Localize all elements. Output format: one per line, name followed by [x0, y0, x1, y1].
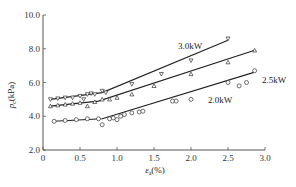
x-tick-label: 0: [41, 153, 46, 163]
data-point: [82, 98, 86, 102]
data-point: [130, 92, 134, 96]
data-point: [104, 91, 108, 95]
data-point: [71, 102, 75, 106]
label-3kw: 3.0kW: [178, 41, 203, 51]
data-point: [141, 109, 145, 113]
data-point: [56, 97, 60, 101]
data-point: [237, 84, 241, 88]
data-point: [85, 104, 89, 108]
y-tick-label: 6.0: [29, 78, 41, 88]
data-point: [159, 72, 163, 76]
y-tick-label: 10.0: [24, 10, 40, 20]
data-point: [63, 102, 67, 106]
data-point: [56, 103, 60, 107]
x-tick-label: 2.5: [222, 153, 234, 163]
data-point: [115, 118, 119, 122]
data-point: [63, 118, 67, 122]
data-point: [48, 104, 52, 108]
chart: 00.51.01.52.02.53.02.04.06.08.010.0 pc(k…: [0, 0, 296, 187]
data-point: [130, 111, 134, 115]
data-point: [100, 123, 104, 127]
data-point: [74, 118, 78, 122]
y-tick-label: 4.0: [29, 111, 41, 121]
label-2kw: 2.0kW: [208, 95, 233, 105]
data-point: [52, 119, 56, 123]
data-point: [253, 69, 257, 73]
data-point: [226, 81, 230, 85]
data-point: [85, 117, 89, 121]
series-layer: [48, 37, 256, 127]
x-tick-label: 2.0: [185, 153, 197, 163]
data-point: [189, 59, 193, 63]
data-point: [48, 98, 52, 102]
label-2-5kw: 2.5kW: [262, 75, 287, 85]
data-point: [93, 93, 97, 97]
y-tick-label: 8.0: [29, 44, 41, 54]
data-point: [189, 72, 193, 76]
x-tick-label: 1.0: [111, 153, 123, 163]
x-tick-label: 3.0: [259, 153, 271, 163]
data-point: [253, 48, 257, 52]
data-point: [78, 101, 82, 105]
data-point: [174, 99, 178, 103]
y-axis-label: pc(kPa): [6, 82, 17, 110]
axes: 00.51.01.52.02.53.02.04.06.08.010.0: [24, 10, 271, 163]
data-point: [108, 117, 112, 121]
data-point: [85, 93, 89, 97]
data-point: [115, 96, 119, 100]
data-point: [226, 37, 230, 41]
data-point: [93, 100, 97, 104]
data-point: [245, 81, 249, 85]
data-point: [137, 110, 141, 114]
y-tick-label: 2.0: [29, 145, 41, 155]
x-tick-label: 1.5: [148, 153, 160, 163]
data-point: [122, 113, 126, 117]
x-axis-label: εa(%): [145, 165, 165, 176]
x-tick-label: 0.5: [74, 153, 86, 163]
data-point: [71, 96, 75, 100]
data-point: [63, 96, 67, 100]
series-3-0kW: [48, 37, 230, 101]
data-point: [97, 117, 101, 121]
data-point: [130, 83, 134, 87]
data-point: [100, 97, 104, 101]
data-point: [189, 97, 193, 101]
data-point: [152, 84, 156, 88]
data-point: [226, 60, 230, 64]
